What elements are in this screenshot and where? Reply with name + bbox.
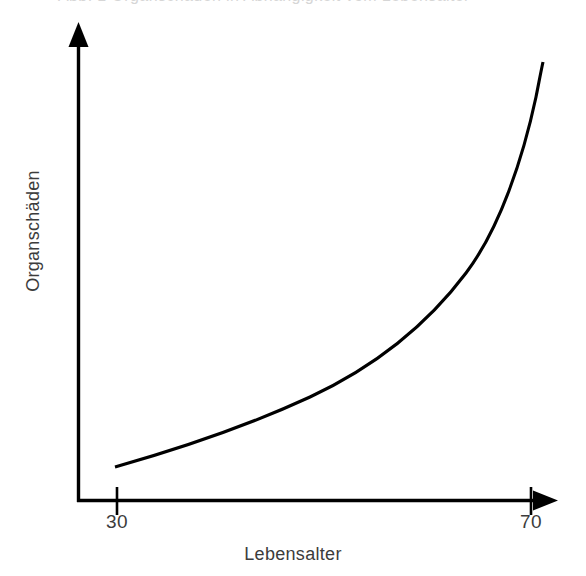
y-axis-title: Organschäden	[24, 161, 42, 301]
x-tick-label-70: 70	[510, 512, 552, 531]
data-curve-organschaeden	[115, 62, 543, 467]
x-axis-arrow-right-icon	[533, 491, 558, 511]
chart-plot-area	[0, 0, 586, 576]
y-axis-arrow-up-icon	[69, 22, 89, 47]
x-axis-title: Lebensalter	[183, 545, 403, 563]
chart-figure: Abb. 1 Organschäden in Abhängigkeit vom …	[0, 0, 586, 576]
x-tick-label-30: 30	[96, 512, 138, 531]
